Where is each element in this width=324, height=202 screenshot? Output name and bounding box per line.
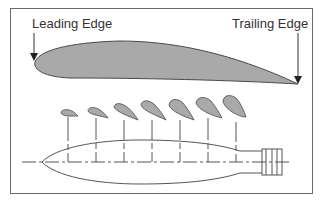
leading-edge-label: Leading Edge bbox=[32, 16, 112, 31]
station-lines bbox=[68, 117, 236, 162]
section-airfoil-5 bbox=[169, 99, 194, 120]
section-airfoil-1 bbox=[61, 110, 78, 116]
leading-edge-arrow-icon bbox=[30, 33, 38, 61]
section-airfoil-6 bbox=[196, 97, 222, 118]
section-airfoil-4 bbox=[141, 101, 166, 120]
trailing-edge-arrow-icon bbox=[294, 33, 302, 84]
section-airfoil-2 bbox=[88, 108, 108, 119]
section-airfoil-7 bbox=[223, 96, 246, 117]
section-airfoil-3 bbox=[114, 104, 138, 120]
main-airfoil bbox=[35, 41, 298, 84]
trailing-edge-label: Trailing Edge bbox=[232, 16, 308, 31]
